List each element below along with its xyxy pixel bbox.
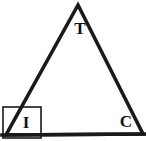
geometry-figure: T I C xyxy=(0,0,146,141)
vertex-label-I: I xyxy=(23,113,30,132)
vertex-label-C: C xyxy=(120,112,132,131)
triangle-diagram-svg: T I C xyxy=(0,0,146,141)
vertex-label-T: T xyxy=(74,19,86,38)
